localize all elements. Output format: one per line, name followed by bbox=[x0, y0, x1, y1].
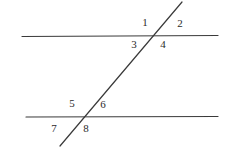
angle-label-8: 8 bbox=[83, 123, 89, 134]
angle-label-3: 3 bbox=[131, 39, 137, 50]
angle-label-2: 2 bbox=[177, 18, 183, 29]
angle-label-4: 4 bbox=[160, 39, 166, 50]
bottom-parallel-line bbox=[26, 117, 218, 118]
angle-label-5: 5 bbox=[69, 98, 75, 109]
angle-label-6: 6 bbox=[100, 99, 106, 110]
angle-label-7: 7 bbox=[51, 123, 57, 134]
top-parallel-line bbox=[22, 36, 218, 37]
parallel-lines-transversal-diagram: 1 2 3 4 5 6 7 8 bbox=[0, 0, 241, 148]
transversal-line bbox=[60, 2, 182, 146]
angle-label-1: 1 bbox=[142, 17, 148, 28]
geometry-canvas bbox=[0, 0, 241, 148]
